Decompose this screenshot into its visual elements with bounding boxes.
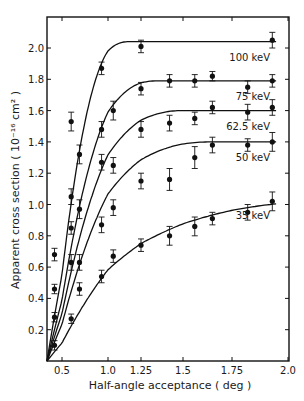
data-point xyxy=(270,199,275,204)
data-point xyxy=(69,225,74,230)
data-point xyxy=(99,222,104,227)
data-point xyxy=(77,286,82,291)
x-tick-label: 2.0 xyxy=(280,365,296,376)
data-point xyxy=(245,85,250,90)
data-point xyxy=(270,139,275,144)
x-tick-label: 1.75 xyxy=(221,365,243,376)
data-point xyxy=(111,108,116,113)
data-point xyxy=(245,110,250,115)
y-axis-title: Apparent cross section ( 10⁻¹⁶ cm² ) xyxy=(9,91,22,289)
y-tick-label: 2.0 xyxy=(28,43,44,54)
y-tick-label: 0.4 xyxy=(28,293,44,304)
data-point xyxy=(167,233,172,238)
data-point xyxy=(77,207,82,212)
data-point xyxy=(138,178,143,183)
cross-section-chart: 0.51.01.251.51.752.00.20.40.60.81.01.21.… xyxy=(0,0,304,401)
data-point xyxy=(270,78,275,83)
x-tick-label: 1.0 xyxy=(100,365,116,376)
data-point xyxy=(138,86,143,91)
fit-curve xyxy=(47,111,276,361)
data-point xyxy=(210,105,215,110)
data-point xyxy=(69,194,74,199)
x-axis-title: Half-angle acceptance ( deg ) xyxy=(89,379,252,392)
data-point xyxy=(210,74,215,79)
data-point xyxy=(270,105,275,110)
fit-curve xyxy=(47,142,276,361)
data-point xyxy=(111,254,116,259)
data-point xyxy=(99,274,104,279)
data-point xyxy=(138,44,143,49)
data-point xyxy=(69,260,74,265)
data-point xyxy=(245,142,250,147)
data-point xyxy=(210,216,215,221)
x-tick-label: 1.25 xyxy=(130,365,152,376)
axis-labels: Half-angle acceptance ( deg ) Apparent c… xyxy=(9,91,251,392)
series-labels: 100 keV75 keV62.5 keV50 keV35 keV xyxy=(226,52,270,221)
y-tick-label: 0.6 xyxy=(28,262,44,273)
data-point xyxy=(138,127,143,132)
data-point xyxy=(167,177,172,182)
data-point xyxy=(167,78,172,83)
x-tick-label: 0.5 xyxy=(54,365,70,376)
series-label: 75 keV xyxy=(236,91,270,102)
data-point xyxy=(270,38,275,43)
plot-frame: 0.51.01.251.51.752.00.20.40.60.81.01.21.… xyxy=(28,17,296,376)
data-point xyxy=(52,286,57,291)
series-label: 50 keV xyxy=(236,152,270,163)
data-point xyxy=(69,119,74,124)
data-point xyxy=(111,205,116,210)
data-point xyxy=(99,127,104,132)
data-point xyxy=(167,121,172,126)
data-point xyxy=(210,142,215,147)
data-point xyxy=(99,160,104,165)
data-point xyxy=(52,315,57,320)
y-tick-label: 0.8 xyxy=(28,231,44,242)
data-point xyxy=(99,66,104,71)
fit-curve xyxy=(47,42,276,361)
data-point xyxy=(111,163,116,168)
series-label: 100 keV xyxy=(229,52,270,63)
data-point xyxy=(192,116,197,121)
y-tick-label: 1.8 xyxy=(28,74,44,85)
series-label: 35 keV xyxy=(236,210,270,221)
data-point xyxy=(77,260,82,265)
y-tick-label: 1.2 xyxy=(28,168,44,179)
y-tick-label: 0.2 xyxy=(28,325,44,336)
series-label: 62.5 keV xyxy=(226,121,270,132)
data-point xyxy=(138,243,143,248)
y-tick-label: 1.6 xyxy=(28,106,44,117)
data-point xyxy=(52,343,57,348)
data-point xyxy=(192,224,197,229)
data-point xyxy=(192,78,197,83)
x-tick-label: 1.5 xyxy=(175,365,191,376)
y-tick-label: 1.0 xyxy=(28,200,44,211)
y-tick-label: 1.4 xyxy=(28,137,44,148)
data-point xyxy=(77,152,82,157)
data-point xyxy=(192,155,197,160)
data-point xyxy=(52,252,57,257)
data-point xyxy=(69,316,74,321)
fit-curves xyxy=(47,42,276,361)
